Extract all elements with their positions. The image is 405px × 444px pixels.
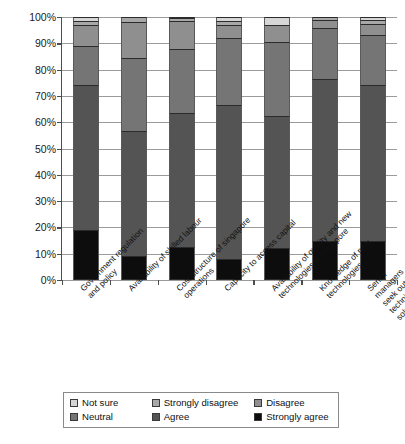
bar-segment-agree[interactable]: [216, 105, 242, 259]
y-tick-mark: [57, 175, 62, 176]
stacked-bars: [62, 17, 397, 280]
x-tick-mark: [158, 280, 159, 285]
y-tick-label: 100%: [10, 12, 56, 23]
y-tick-label: 60%: [10, 117, 56, 128]
bar-segment-agree[interactable]: [121, 131, 147, 256]
bar-segment-agree[interactable]: [169, 113, 195, 247]
y-tick-mark: [57, 201, 62, 202]
legend-swatch-icon: [254, 413, 262, 421]
bar-segment-disagree[interactable]: [73, 25, 99, 46]
bar-column[interactable]: [121, 17, 147, 280]
bar-segment-agree[interactable]: [312, 79, 338, 241]
legend-swatch-icon: [70, 399, 78, 407]
bar-column[interactable]: [216, 17, 242, 280]
x-tick-mark: [62, 280, 63, 285]
y-tick-label: 80%: [10, 65, 56, 76]
bar-segment-agree[interactable]: [360, 85, 386, 240]
x-tick-mark: [110, 280, 111, 285]
y-tick-label: 0%: [10, 275, 56, 286]
legend-swatch-icon: [152, 399, 160, 407]
legend-label: Strongly disagree: [164, 397, 239, 408]
bar-column[interactable]: [73, 17, 99, 280]
y-tick-mark: [57, 149, 62, 150]
bar-segment-strongly-agree[interactable]: [264, 248, 290, 280]
legend-row: NeutralAgreeStrongly agree: [70, 411, 332, 422]
x-tick-mark: [253, 280, 254, 285]
bar-segment-neutral[interactable]: [312, 28, 338, 79]
y-tick-label: 40%: [10, 170, 56, 181]
bar-segment-disagree[interactable]: [312, 20, 338, 28]
y-tick-label: 20%: [10, 222, 56, 233]
legend-item-agree[interactable]: Agree: [152, 411, 255, 422]
legend-label: Strongly agree: [266, 411, 328, 422]
bar-segment-neutral[interactable]: [73, 46, 99, 85]
y-tick-mark: [57, 70, 62, 71]
bar-segment-strongly-agree[interactable]: [121, 256, 147, 280]
legend-item-strongly-agree[interactable]: Strongly agree: [254, 411, 332, 422]
bar-segment-strongly-agree[interactable]: [73, 230, 99, 280]
y-tick-label: 70%: [10, 91, 56, 102]
bar-segment-not-sure[interactable]: [264, 17, 290, 25]
plot-area: [62, 17, 397, 280]
legend-item-neutral[interactable]: Neutral: [70, 411, 152, 422]
y-tick-label: 30%: [10, 196, 56, 207]
bar-segment-disagree[interactable]: [169, 21, 195, 49]
y-tick-label: 90%: [10, 38, 56, 49]
y-tick-mark: [57, 227, 62, 228]
bar-segment-disagree[interactable]: [216, 25, 242, 38]
bar-segment-strongly-agree[interactable]: [360, 241, 386, 280]
x-tick-mark: [349, 280, 350, 285]
y-tick-mark: [57, 254, 62, 255]
legend-item-not-sure[interactable]: Not sure: [70, 397, 152, 408]
gridline: [62, 280, 397, 281]
bar-segment-agree[interactable]: [73, 85, 99, 230]
bar-segment-neutral[interactable]: [169, 49, 195, 113]
bar-column[interactable]: [264, 17, 290, 280]
x-tick-mark: [301, 280, 302, 285]
legend-label: Disagree: [266, 397, 304, 408]
chart-legend: Not sureStrongly disagreeDisagreeNeutral…: [63, 392, 339, 428]
bar-segment-strongly-agree[interactable]: [169, 247, 195, 280]
bar-segment-disagree[interactable]: [121, 22, 147, 58]
bar-segment-agree[interactable]: [264, 116, 290, 249]
bar-segment-neutral[interactable]: [216, 38, 242, 105]
legend-swatch-icon: [254, 399, 262, 407]
legend-label: Neutral: [82, 411, 113, 422]
bar-segment-neutral[interactable]: [121, 58, 147, 132]
legend-row: Not sureStrongly disagreeDisagree: [70, 397, 332, 408]
bar-column[interactable]: [360, 17, 386, 280]
legend-item-disagree[interactable]: Disagree: [254, 397, 332, 408]
bar-segment-neutral[interactable]: [360, 35, 386, 85]
y-tick-label: 50%: [10, 144, 56, 155]
y-tick-mark: [57, 17, 62, 18]
legend-swatch-icon: [70, 413, 78, 421]
bar-segment-neutral[interactable]: [264, 42, 290, 116]
chart-figure: 0%10%20%30%40%50%60%70%80%90%100% Govern…: [0, 0, 405, 444]
legend-label: Agree: [164, 411, 190, 422]
bar-segment-disagree[interactable]: [264, 25, 290, 42]
y-tick-mark: [57, 43, 62, 44]
y-tick-mark: [57, 96, 62, 97]
bar-segment-strongly-agree[interactable]: [216, 259, 242, 280]
bar-segment-strongly-agree[interactable]: [312, 241, 338, 280]
bar-segment-disagree[interactable]: [360, 24, 386, 36]
bar-column[interactable]: [169, 17, 195, 280]
y-tick-label: 10%: [10, 249, 56, 260]
bar-column[interactable]: [312, 17, 338, 280]
x-tick-mark: [397, 280, 398, 285]
legend-item-strongly-disagree[interactable]: Strongly disagree: [152, 397, 255, 408]
legend-label: Not sure: [82, 397, 118, 408]
legend-swatch-icon: [152, 413, 160, 421]
y-tick-mark: [57, 122, 62, 123]
x-tick-mark: [206, 280, 207, 285]
